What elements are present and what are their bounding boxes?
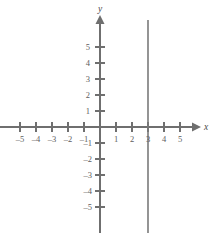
y-axis-label: y bbox=[97, 4, 103, 14]
y-tick-label: –2 bbox=[83, 154, 93, 164]
x-tick-label: –3 bbox=[47, 134, 57, 144]
coordinate-plane-figure: –5 –4 –3 –2 –1 1 2 3 4 5 5 4 3 2 1 –1 –2… bbox=[0, 0, 217, 233]
y-tick-label: 4 bbox=[86, 58, 91, 68]
y-tick-label: –5 bbox=[83, 202, 93, 212]
y-tick-label: –4 bbox=[83, 186, 93, 196]
x-tick-label: 5 bbox=[178, 134, 182, 144]
y-tick-label: 5 bbox=[86, 42, 90, 52]
y-tick-label: 3 bbox=[86, 74, 90, 84]
x-axis-arrow-icon bbox=[192, 123, 201, 132]
x-tick-label: –5 bbox=[15, 134, 25, 144]
x-tick-label: 4 bbox=[162, 134, 167, 144]
x-axis-label: x bbox=[203, 122, 209, 132]
x-tick-label: 2 bbox=[130, 134, 134, 144]
x-tick-label: 1 bbox=[114, 134, 118, 144]
x-tick-label: 3 bbox=[146, 134, 150, 144]
y-tick-label: 1 bbox=[86, 106, 90, 116]
y-tick-label: –3 bbox=[83, 170, 93, 180]
x-tick-label: –2 bbox=[63, 134, 73, 144]
y-tick-label: 2 bbox=[86, 90, 90, 100]
x-tick-label: –4 bbox=[31, 134, 41, 144]
coordinate-plane-svg: –5 –4 –3 –2 –1 1 2 3 4 5 5 4 3 2 1 –1 –2… bbox=[0, 0, 217, 233]
y-tick-label: –1 bbox=[83, 138, 93, 148]
y-axis-arrow-icon bbox=[96, 15, 105, 24]
